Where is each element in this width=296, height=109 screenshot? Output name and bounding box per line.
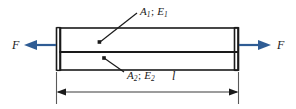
lower-layer-label: A2; E2 xyxy=(127,70,155,83)
lower-layer-rect xyxy=(60,52,238,70)
upper-layer-separator: ; xyxy=(150,5,154,17)
length-dimension-line xyxy=(57,89,239,96)
lower-layer-area-symbol: A xyxy=(127,69,134,81)
dimension-arrow-right-icon xyxy=(229,89,239,96)
upper-layer-modulus-symbol: E xyxy=(157,5,164,17)
lower-layer-separator: ; xyxy=(137,69,141,81)
composite-bar-diagram: A1; E1 A2; E2 F F l xyxy=(0,0,296,109)
force-arrow-right xyxy=(239,40,271,50)
force-arrow-right-head xyxy=(258,40,271,50)
upper-layer-rect xyxy=(60,28,238,52)
dimension-arrow-left-icon xyxy=(57,89,67,96)
force-label-right: F xyxy=(277,39,284,51)
length-label: l xyxy=(172,70,175,82)
upper-layer-label: A1; E1 xyxy=(140,6,168,19)
lower-layer-modulus-symbol: E xyxy=(144,69,151,81)
force-arrow-left-head xyxy=(24,40,37,50)
leader-dot-lower-icon xyxy=(102,56,106,60)
leader-dot-upper-icon xyxy=(98,40,102,44)
force-arrow-left xyxy=(24,40,56,50)
upper-layer-modulus-subscript: 1 xyxy=(164,10,168,19)
upper-layer-area-symbol: A xyxy=(140,5,147,17)
force-label-left: F xyxy=(12,39,19,51)
lower-layer-modulus-subscript: 2 xyxy=(151,74,155,83)
